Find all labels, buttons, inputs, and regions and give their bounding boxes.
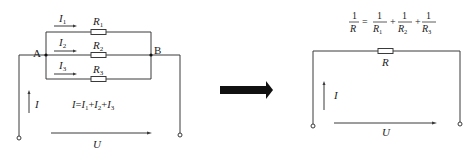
node-b-label: B — [154, 44, 161, 56]
svg-text:R3: R3 — [421, 23, 431, 35]
label-r1: R1 — [92, 15, 104, 29]
svg-text:R2: R2 — [397, 23, 407, 35]
svg-text:R: R — [349, 23, 356, 34]
equivalent-arrows — [323, 81, 438, 125]
label-i1: I1 — [58, 12, 67, 26]
svg-text:=: = — [362, 16, 368, 27]
equivalent-labels: R I U — [333, 56, 391, 138]
resistor-r3 — [91, 77, 106, 82]
label-voltage: U — [93, 138, 102, 150]
circuit-diagram: A B I1 R1 I2 R2 I3 R3 I I=I1+I2+I3 U R I… — [0, 0, 476, 153]
junction-a-dot — [44, 53, 47, 56]
svg-text:R1: R1 — [372, 23, 382, 35]
node-a-label: A — [33, 47, 41, 59]
svg-text:+: + — [390, 16, 396, 27]
label-i2: I2 — [58, 36, 67, 50]
svg-text:+: + — [415, 16, 421, 27]
svg-text:1: 1 — [377, 10, 382, 21]
terminal-left — [17, 136, 21, 140]
transform-arrow-icon — [220, 81, 273, 99]
resistor-r2 — [91, 53, 106, 58]
terminal-eq-right — [458, 122, 462, 126]
label-r-equivalent: R — [381, 56, 389, 68]
label-eq-current: I — [333, 89, 339, 101]
svg-text:1: 1 — [352, 10, 357, 21]
label-r3: R3 — [92, 63, 104, 77]
terminal-eq-left — [311, 124, 315, 128]
equivalent-resistance-formula: 1 R = 1 R1 + 1 R2 + 1 R3 — [349, 10, 436, 35]
terminal-right — [178, 133, 182, 137]
label-i3: I3 — [58, 59, 67, 73]
current-sum-equation: I=I1+I2+I3 — [71, 99, 115, 112]
svg-text:1: 1 — [426, 10, 431, 21]
resistor-r1 — [91, 30, 106, 35]
junction-b-dot — [149, 53, 152, 56]
label-eq-voltage: U — [382, 126, 391, 138]
label-r2: R2 — [92, 39, 104, 53]
resistor-r-equivalent — [378, 49, 393, 54]
label-total-current: I — [34, 98, 40, 110]
svg-text:1: 1 — [402, 10, 407, 21]
